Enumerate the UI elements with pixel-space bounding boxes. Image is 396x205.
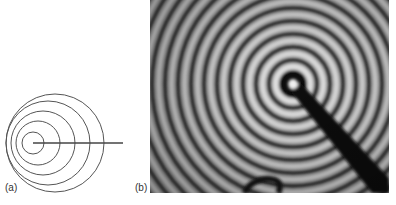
ripple-tank-photo — [150, 0, 389, 193]
panel-b-label: (b) — [135, 182, 147, 193]
wavefront-diagram — [0, 0, 140, 205]
panel-a-label: (a) — [5, 182, 17, 193]
panel-b-photo — [150, 0, 389, 193]
panel-a-diagram: (a) — [0, 0, 140, 205]
